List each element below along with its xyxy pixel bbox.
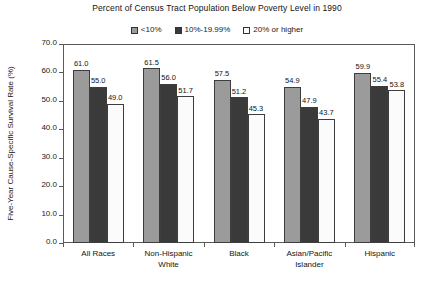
x-axis-category-label: Black [204,249,274,260]
x-axis-category-line: Hispanic [345,249,415,260]
legend-swatch-icon [131,27,138,34]
x-axis-ticks [63,243,415,248]
bar-value-label: 43.7 [317,108,336,117]
legend-label: 20% or higher [253,26,303,34]
x-axis-category-label: All Races [63,249,133,260]
bar [90,87,107,243]
bar [214,80,231,243]
bar [73,70,90,243]
bar-group: 61.556.051.7 [143,44,194,243]
x-axis-tick-mark [274,243,275,247]
y-axis-tick-label: 10.0 [41,209,57,218]
bar-value-label: 47.9 [300,96,319,105]
y-axis-ticks: 70.060.050.040.030.020.010.00.0 [0,44,63,243]
x-axis-tick-mark [63,243,64,247]
x-axis-category-line: White [133,260,203,271]
bar-group: 57.551.245.3 [214,44,265,243]
chart-title: Percent of Census Tract Population Below… [0,3,434,13]
x-axis-category-line: Islander [274,260,344,271]
bar-value-label: 56.0 [159,73,178,82]
y-axis-tick-label: 50.0 [41,95,57,104]
bar-value-label: 51.2 [230,87,249,96]
bar-value-label: 57.5 [213,69,232,78]
x-axis-category-line: All Races [63,249,133,260]
bar-group: 54.947.943.7 [284,44,335,243]
y-axis-tick-label: 40.0 [41,123,57,132]
bar [177,96,194,243]
legend-label: 10%-19.99% [185,26,231,34]
bar [143,68,160,243]
bar-value-label: 45.3 [247,104,266,113]
y-axis-tick-label: 70.0 [41,38,57,47]
bar-value-label: 61.0 [72,59,91,68]
bar-value-label: 51.7 [176,86,195,95]
x-axis-tick-mark [204,243,205,247]
bar-value-label: 53.8 [387,80,406,89]
x-axis-tick-mark [345,243,346,247]
legend-swatch-icon [175,27,182,34]
y-axis-tick-label: 20.0 [41,180,57,189]
x-axis-category-label: Asian/PacificIslander [274,249,344,270]
x-axis-labels: All RacesNon-HispanicWhiteBlackAsian/Pac… [63,249,415,279]
bar [301,107,318,243]
bar-group: 61.055.049.0 [73,44,124,243]
bar-group: 59.955.453.8 [354,44,405,243]
bar [248,114,265,243]
legend-item-lt10: <10% [131,26,162,34]
chart-legend: <10% 10%-19.99% 20% or higher [0,26,434,34]
bar-value-label: 55.0 [89,76,108,85]
y-axis-tick-label: 60.0 [41,66,57,75]
bar-value-label: 54.9 [283,76,302,85]
bar [371,86,388,243]
bar [388,90,405,243]
bar [160,84,177,243]
x-axis-tick-mark [414,243,415,247]
bar-value-label: 49.0 [106,93,125,102]
bar [318,119,335,243]
x-axis-tick-mark [133,243,134,247]
legend-swatch-icon [243,27,250,34]
bar [284,87,301,243]
bar-value-label: 61.5 [142,58,161,67]
y-axis-tick-label: 0.0 [46,237,57,246]
bar [354,73,371,243]
bars-layer: 61.055.049.061.556.051.757.551.245.354.9… [63,44,415,243]
x-axis-category-label: Non-HispanicWhite [133,249,203,270]
x-axis-category-line: Asian/Pacific [274,249,344,260]
bar [107,104,124,243]
legend-label: <10% [141,26,162,34]
bar-value-label: 59.9 [353,62,372,71]
legend-item-20plus: 20% or higher [243,26,303,34]
y-axis-tick-label: 30.0 [41,152,57,161]
legend-item-10to19: 10%-19.99% [175,26,231,34]
bar [231,97,248,243]
x-axis-category-line: Non-Hispanic [133,249,203,260]
x-axis-category-line: Black [204,249,274,260]
x-axis-category-label: Hispanic [345,249,415,260]
